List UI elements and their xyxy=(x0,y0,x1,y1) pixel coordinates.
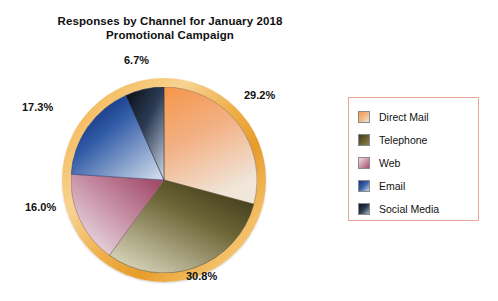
legend-item-social-media[interactable]: Social Media xyxy=(358,197,478,220)
pie-chart-figure: Responses by Channel for January 2018 Pr… xyxy=(0,0,498,301)
legend-item-telephone[interactable]: Telephone xyxy=(358,128,478,151)
legend-label-telephone: Telephone xyxy=(379,134,427,146)
legend-swatch-direct-mail xyxy=(358,111,370,123)
legend-swatch-telephone xyxy=(358,134,370,146)
chart-title: Responses by Channel for January 2018 Pr… xyxy=(0,14,340,42)
legend-label-email: Email xyxy=(379,180,405,192)
data-label-telephone: 30.8% xyxy=(186,270,217,282)
data-label-email: 17.3% xyxy=(22,101,53,113)
legend-label-direct-mail: Direct Mail xyxy=(379,111,429,123)
data-label-web: 16.0% xyxy=(25,201,56,213)
data-label-direct-mail: 29.2% xyxy=(244,89,275,101)
legend-swatch-email xyxy=(358,180,370,192)
pie-chart xyxy=(62,78,266,282)
legend-swatch-web xyxy=(358,157,370,169)
legend-label-web: Web xyxy=(379,157,400,169)
legend-item-email[interactable]: Email xyxy=(358,174,478,197)
chart-legend: Direct Mail Telephone Web Email Social M… xyxy=(348,97,479,221)
legend-item-direct-mail[interactable]: Direct Mail xyxy=(358,105,478,128)
legend-label-social-media: Social Media xyxy=(379,203,439,215)
data-label-social-media: 6.7% xyxy=(124,54,149,66)
pie-slices xyxy=(71,87,257,273)
legend-swatch-social-media xyxy=(358,203,370,215)
legend-item-web[interactable]: Web xyxy=(358,151,478,174)
